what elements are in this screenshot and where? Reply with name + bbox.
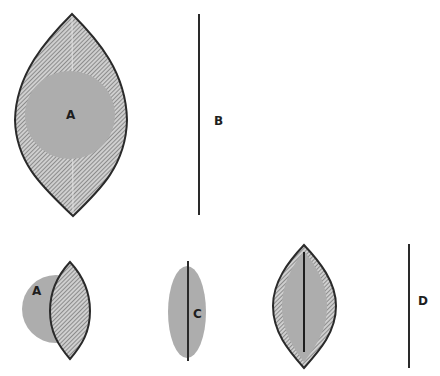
figure-lens-with-inner-lens (273, 245, 336, 368)
label-b: B (214, 114, 223, 128)
figure-line-d: D (409, 244, 428, 368)
label-c: C (193, 307, 202, 321)
figure-lens-with-circle-a: A (15, 14, 127, 216)
figure-circle-a-with-lens: A (22, 262, 90, 359)
figure-line-b: B (199, 14, 223, 215)
label-d: D (418, 294, 428, 308)
figure-ellipse-c: C (168, 261, 206, 361)
diagram-canvas: A B A C D (0, 0, 440, 376)
label-a-top: A (66, 108, 76, 122)
label-a-bottom: A (32, 284, 42, 298)
